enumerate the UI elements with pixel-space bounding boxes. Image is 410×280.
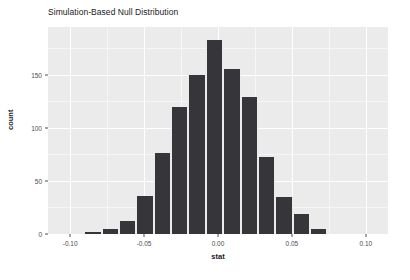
x-tick-mark — [365, 234, 366, 237]
y-tick-mark — [45, 127, 48, 128]
histogram-bar — [223, 69, 240, 234]
gridline-major-vertical — [366, 27, 367, 234]
histogram-bar — [188, 75, 205, 234]
histogram-bar — [136, 196, 153, 234]
x-tick-mark — [144, 234, 145, 237]
histogram-bar — [206, 40, 223, 234]
histogram-bar — [154, 153, 171, 234]
y-tick-label: 150 — [31, 71, 42, 78]
x-axis-title: stat — [48, 252, 388, 261]
y-tick-label: 50 — [35, 177, 42, 184]
x-tick-mark — [218, 234, 219, 237]
histogram-chart: Simulation-Based Null Distribution count… — [0, 0, 410, 280]
x-tick-label: 0.10 — [359, 240, 372, 247]
y-tick-mark — [45, 74, 48, 75]
histogram-bar — [171, 107, 188, 234]
x-tick-mark — [70, 234, 71, 237]
y-tick-mark — [45, 180, 48, 181]
x-tick-label: -0.10 — [63, 240, 78, 247]
histogram-bar — [310, 229, 327, 234]
histogram-bar — [275, 197, 292, 234]
gridline-minor-vertical — [107, 27, 108, 234]
x-tick-mark — [291, 234, 292, 237]
gridline-minor-vertical — [329, 27, 330, 234]
histogram-bar — [119, 221, 136, 234]
histogram-bar — [84, 232, 101, 234]
plot-panel — [48, 27, 388, 234]
x-tick-label: 0.00 — [212, 240, 225, 247]
histogram-bar — [102, 229, 119, 234]
chart-title: Simulation-Based Null Distribution — [48, 7, 178, 17]
x-tick-label: 0.05 — [286, 240, 299, 247]
y-tick-label: 0 — [38, 231, 42, 238]
histogram-bar — [258, 157, 275, 234]
y-tick-mark — [45, 234, 48, 235]
histogram-bar — [241, 97, 258, 234]
y-tick-label: 100 — [31, 124, 42, 131]
gridline-major-vertical — [70, 27, 71, 234]
y-axis-title: count — [6, 110, 15, 130]
histogram-bar — [293, 214, 310, 234]
x-tick-label: -0.05 — [137, 240, 152, 247]
